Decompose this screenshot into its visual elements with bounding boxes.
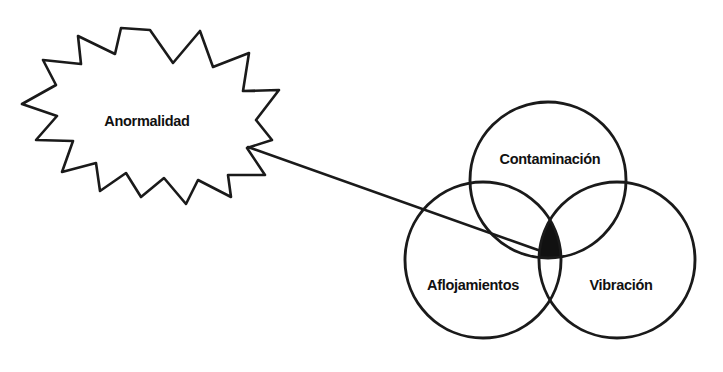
starburst-callout: Anormalidad: [22, 28, 279, 204]
connector-arrow: [248, 147, 538, 250]
label-contaminacion: Contaminación: [500, 151, 601, 167]
venn-circles: [405, 102, 695, 338]
starburst-label: Anormalidad: [104, 113, 189, 129]
connector-line-segment: [248, 147, 538, 250]
diagram-canvas: Anormalidad Contaminación Aflojamientos …: [0, 0, 723, 372]
label-aflojamientos: Aflojamientos: [427, 277, 519, 293]
label-vibracion: Vibración: [589, 277, 652, 293]
diagram-svg: Anormalidad Contaminación Aflojamientos …: [0, 0, 723, 372]
